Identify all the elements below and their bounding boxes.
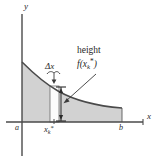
riemann-sum-figure: y x a b Δx xk* height f(xk*) xyxy=(0,0,160,165)
delta-variable: x xyxy=(50,61,54,71)
height-callout-label: height xyxy=(77,46,101,56)
delta-x-label: Δx xyxy=(45,62,54,71)
lower-bound-label: a xyxy=(15,124,19,132)
function-value-callout-label: f(xk*) xyxy=(77,58,97,70)
sample-point-superscript: * xyxy=(51,124,54,131)
x-axis-label: x xyxy=(147,112,151,121)
height-measure-top-arrowhead xyxy=(59,88,63,93)
delta-x-arrowhead xyxy=(52,79,57,84)
shaded-area-under-curve xyxy=(22,62,122,122)
callout-leader-line xyxy=(66,74,96,101)
figure-canvas xyxy=(0,0,160,165)
upper-bound-label: b xyxy=(119,124,123,132)
delta-x-brace xyxy=(47,72,60,74)
sample-point-label: xk* xyxy=(44,125,54,135)
y-axis-label: y xyxy=(24,2,28,11)
close-paren: ) xyxy=(94,59,97,69)
